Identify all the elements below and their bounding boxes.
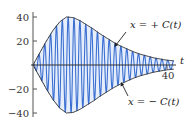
x-axis-label: t (180, 55, 185, 66)
x-tick-label-40: 40 (162, 70, 175, 81)
y-tick-label-m20: −20 (8, 84, 29, 95)
y-tick-label-m40: −40 (8, 108, 29, 119)
y-tick-label-20: 20 (16, 36, 29, 47)
lower-envelope-annotation: x = − C(t) (128, 96, 180, 107)
lower-annotation-arrow (122, 84, 128, 96)
upper-annotation-arrow (116, 32, 126, 45)
y-tick-label-40: 40 (16, 12, 29, 23)
oscillation-chart: 40 20 −20 −40 40 t x = + C(t) x = − C(t) (0, 0, 196, 120)
upper-envelope-annotation: x = + C(t) (130, 19, 182, 30)
